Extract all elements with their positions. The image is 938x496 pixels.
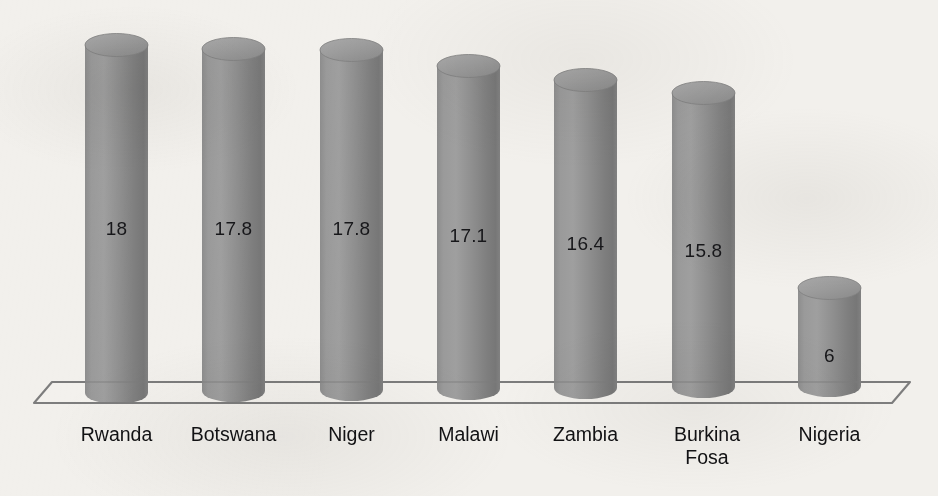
bar-value-label: 17.8: [215, 219, 253, 238]
bar-chart: 18 17.8 17.8 17.1 16.4 15.8 6 Rwanda Bot…: [0, 0, 938, 496]
bar-value-label: 17.1: [450, 226, 488, 245]
bar-value-label: 6: [824, 346, 835, 365]
x-axis-label-botswana: Botswana: [191, 423, 277, 446]
x-axis-label-nigeria: Nigeria: [799, 423, 861, 446]
bar-cylinder-nigeria: [798, 277, 861, 398]
x-axis-label-burkina-fosa: Burkina Fosa: [674, 423, 740, 469]
bar-value-label: 16.4: [567, 234, 605, 253]
bar-value-label: 17.8: [333, 219, 371, 238]
bar-value-label: 15.8: [685, 241, 723, 260]
x-axis-label-malawi: Malawi: [438, 423, 499, 446]
x-axis-label-rwanda: Rwanda: [81, 423, 153, 446]
x-axis-label-niger: Niger: [328, 423, 375, 446]
chart-plot-area: [0, 0, 938, 496]
bar-value-label: 18: [106, 219, 128, 238]
x-axis-label-zambia: Zambia: [553, 423, 618, 446]
